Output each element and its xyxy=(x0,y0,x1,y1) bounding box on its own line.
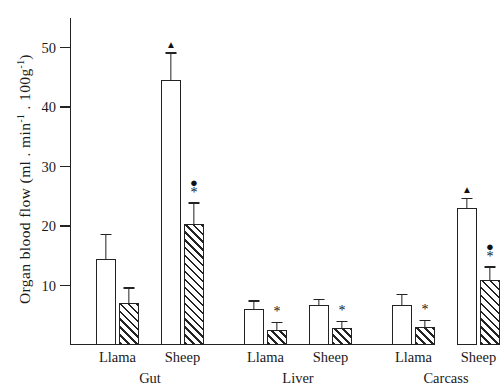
error-bar-cap xyxy=(124,287,135,288)
y-axis-title-sup-2: -1 xyxy=(16,60,26,69)
x-label-species-0: Llama xyxy=(99,349,136,366)
significance-marker-circle: ● xyxy=(486,240,494,253)
error-bar-cap xyxy=(189,202,200,203)
error-bar-cap xyxy=(272,322,283,323)
error-bar-stem xyxy=(193,204,194,225)
y-tick-label-30: 30 xyxy=(22,159,56,174)
plot-area: ▲▲*●****● xyxy=(70,18,433,345)
error-bar-stem xyxy=(105,235,106,259)
significance-marker-triangle: ▲ xyxy=(462,185,472,195)
error-bar-cap xyxy=(462,198,473,199)
error-bar-stem xyxy=(276,323,277,330)
x-label-species-2: Llama xyxy=(247,349,284,366)
y-axis-title-text: Organ blood flow (ml . min xyxy=(16,123,33,304)
y-tick-label-50: 50 xyxy=(22,40,56,55)
error-bar-stem xyxy=(253,302,254,310)
error-bar-stem xyxy=(466,199,467,208)
error-bar-stem xyxy=(170,54,171,81)
bar xyxy=(96,259,116,345)
y-tick-label-20: 20 xyxy=(22,219,56,234)
bar-group-liver-sheep-hatched: * xyxy=(332,18,352,345)
error-bar-cap xyxy=(397,294,408,295)
error-bar-stem xyxy=(318,300,319,305)
bar-group-liver-llama-open xyxy=(244,18,264,345)
x-label-species-4: Llama xyxy=(395,349,432,366)
y-tick-label-40: 40 xyxy=(22,100,56,115)
bar-group-liver-sheep-open xyxy=(309,18,329,345)
x-label-organ-gut: Gut xyxy=(139,370,161,387)
bar-group-carcass-sheep-open: ▲ xyxy=(457,18,477,345)
significance-marker-asterisk: * xyxy=(339,304,346,318)
bar-group-carcass-llama-hatched: * xyxy=(415,18,435,345)
bar-group-gut-sheep-hatched: *● xyxy=(184,18,204,345)
bar-group-gut-llama-hatched xyxy=(119,18,139,345)
y-tick-label-10: 10 xyxy=(22,278,56,293)
error-bar-cap xyxy=(166,52,177,53)
error-bar-stem xyxy=(401,295,402,305)
significance-marker-circle: ● xyxy=(190,176,198,189)
bar-group-gut-sheep-open: ▲ xyxy=(161,18,181,345)
significance-marker-asterisk: * xyxy=(422,303,429,317)
error-bar-cap xyxy=(249,300,260,301)
bar-group-carcass-sheep-hatched: *● xyxy=(480,18,500,345)
bar xyxy=(457,208,477,345)
x-label-species-3: Sheep xyxy=(313,349,348,366)
x-label-species-5: Sheep xyxy=(461,349,496,366)
bar-group-gut-llama-open xyxy=(96,18,116,345)
error-bar-cap xyxy=(101,234,112,235)
x-label-organ-liver: Liver xyxy=(282,370,313,387)
bar xyxy=(119,303,139,345)
x-label-organ-carcass: Carcass xyxy=(423,370,468,387)
x-label-species-1: Sheep xyxy=(165,349,200,366)
error-bar-stem xyxy=(424,321,425,327)
bar xyxy=(161,80,181,345)
bar xyxy=(480,280,500,345)
bar xyxy=(244,309,264,345)
bar xyxy=(392,305,412,345)
error-bar-cap xyxy=(485,266,496,267)
bar xyxy=(267,330,287,345)
y-axis-title-sup-1: -1 xyxy=(16,114,26,123)
bar-group-carcass-llama-open xyxy=(392,18,412,345)
bar xyxy=(415,327,435,345)
error-bar-stem xyxy=(489,268,490,280)
error-bar-cap xyxy=(420,320,431,321)
significance-marker-asterisk: * xyxy=(274,305,281,319)
bar xyxy=(184,224,204,345)
significance-marker-triangle: ▲ xyxy=(166,40,176,50)
error-bar-cap xyxy=(337,321,348,322)
bar xyxy=(332,328,352,345)
bar-group-liver-llama-hatched: * xyxy=(267,18,287,345)
bar xyxy=(309,305,329,345)
error-bar-cap xyxy=(314,299,325,300)
y-axis-title: Organ blood flow (ml . min-1 . 100g-1) xyxy=(16,14,34,344)
error-bar-stem xyxy=(128,289,129,304)
error-bar-stem xyxy=(341,322,342,328)
